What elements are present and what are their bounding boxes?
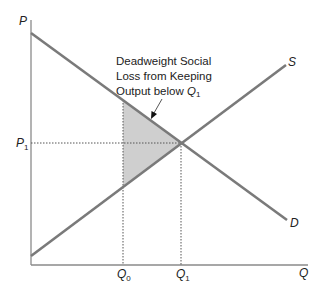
q0-label: Q0: [117, 267, 131, 283]
supply-demand-diagram: P Q S D P1 Q0 Q1: [0, 0, 325, 291]
supply-label: S: [288, 55, 296, 69]
p1-label: P1: [16, 136, 29, 152]
demand-label: D: [290, 216, 299, 230]
deadweight-loss-annotation: Deadweight Social Loss from Keeping Outp…: [116, 54, 212, 102]
y-axis-label: P: [19, 14, 27, 28]
annotation-q-sub: 1: [196, 90, 200, 99]
q1-label: Q1: [176, 267, 190, 283]
annotation-line-3-text: Output below: [116, 85, 187, 97]
annotation-line-3: Output below Q1: [116, 84, 212, 102]
x-axis-label: Q: [299, 266, 308, 280]
annotation-q-var: Q: [187, 85, 196, 97]
annotation-line-1: Deadweight Social: [116, 54, 212, 69]
annotation-line-2: Loss from Keeping: [116, 69, 212, 84]
